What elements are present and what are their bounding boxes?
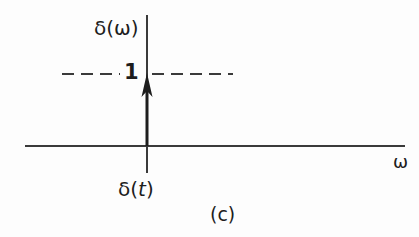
impulse-source-label: δ(t) [118, 179, 154, 199]
figure-container: δ(ω) ω 1 δ(t) (c) [0, 0, 419, 237]
x-axis-label: ω [393, 153, 408, 171]
figure-canvas [0, 0, 419, 237]
impulse-label-suffix: ) [146, 177, 154, 201]
amplitude-value-label: 1 [124, 62, 139, 83]
impulse-label-prefix: δ( [118, 177, 138, 201]
impulse-label-variable: t [138, 177, 146, 201]
figure-caption: (c) [210, 205, 235, 224]
y-axis-label: δ(ω) [94, 18, 139, 38]
